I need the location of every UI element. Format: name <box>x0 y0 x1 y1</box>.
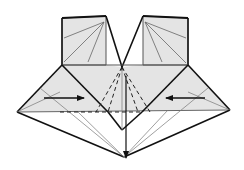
upper-band <box>17 65 230 112</box>
left-square-flap <box>62 16 106 65</box>
right-square-flap <box>143 16 188 65</box>
origami-diagram <box>0 0 244 170</box>
center-v <box>106 16 143 67</box>
